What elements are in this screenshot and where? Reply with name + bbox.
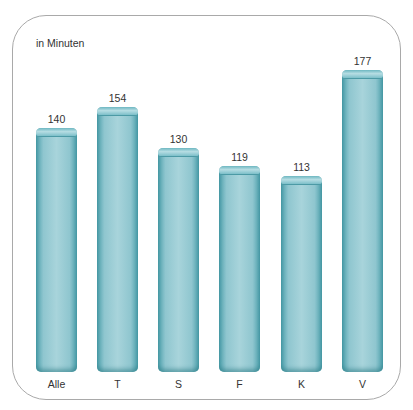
category-label-alle: Alle bbox=[36, 378, 77, 390]
bar-alle bbox=[36, 128, 77, 372]
value-label-k: 113 bbox=[281, 161, 322, 173]
bar-s bbox=[158, 148, 199, 372]
bar-v bbox=[342, 70, 383, 372]
unit-label: in Minuten bbox=[36, 37, 84, 49]
bar-t bbox=[97, 107, 138, 372]
category-label-s: S bbox=[158, 378, 199, 390]
bar-k bbox=[281, 176, 322, 372]
value-label-v: 177 bbox=[342, 55, 383, 67]
category-label-k: K bbox=[281, 378, 322, 390]
value-label-t: 154 bbox=[97, 92, 138, 104]
category-label-v: V bbox=[342, 378, 383, 390]
category-label-f: F bbox=[219, 378, 260, 390]
value-label-f: 119 bbox=[219, 151, 260, 163]
value-label-alle: 140 bbox=[36, 113, 77, 125]
value-label-s: 130 bbox=[158, 133, 199, 145]
category-label-t: T bbox=[97, 378, 138, 390]
bar-f bbox=[219, 166, 260, 372]
